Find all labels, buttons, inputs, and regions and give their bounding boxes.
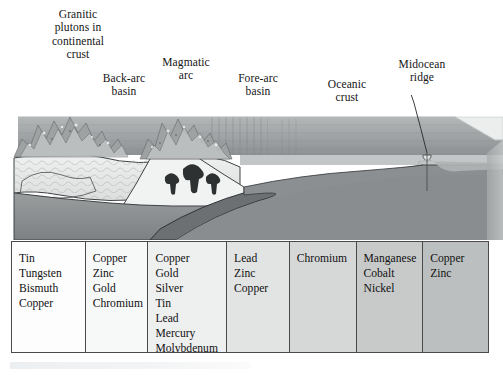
mineral-item: Bismuth [19, 281, 85, 296]
table-column-midocean-ridge-manganese: Manganese Cobalt Nickel [357, 242, 424, 352]
table-column-fore-arc-basin: Lead Zinc Copper [227, 242, 290, 352]
mineral-item: Tin [19, 251, 85, 266]
label-line: Fore-arc [222, 72, 294, 85]
mineral-item: Lead [234, 251, 289, 266]
mineral-item: Cobalt [364, 266, 423, 281]
mineral-item: Zinc [430, 266, 488, 281]
label-line: ridge [382, 71, 462, 84]
table-column-back-arc-basin: Copper Zinc Gold Chromium [86, 242, 149, 352]
ore-deposit-table: Tin Tungsten Bismuth Copper Copper Zinc … [11, 241, 489, 353]
label-granitic-plutons: Granitic plutons in continental crust [24, 8, 132, 61]
mineral-item: Chromium [93, 296, 148, 311]
mineral-item: Chromium [297, 251, 356, 266]
mineral-item: Copper [234, 281, 289, 296]
table-column-granitic-plutons: Tin Tungsten Bismuth Copper [12, 242, 86, 352]
mineral-item: Lead [155, 311, 226, 326]
table-column-magmatic-arc: Copper Gold Silver Tin Lead Mercury Moly… [148, 242, 227, 352]
mineral-item: Copper [19, 296, 85, 311]
mineral-item: Gold [93, 281, 148, 296]
label-line: Midocean [382, 58, 462, 71]
mineral-item: Molybdenum [155, 341, 226, 352]
subduction-zone-block-diagram [0, 95, 503, 240]
mineral-item: Copper [93, 251, 148, 266]
table-column-oceanic-crust: Chromium [290, 242, 357, 352]
table-column-midocean-ridge-copper: Copper Zinc [423, 242, 488, 352]
mineral-item: Mercury [155, 326, 226, 341]
figure-canvas: Granitic plutons in continental crust Ba… [0, 0, 503, 375]
mineral-item: Zinc [93, 266, 148, 281]
footer-bar [10, 362, 250, 369]
label-line: arc [146, 69, 226, 82]
label-magmatic-arc: Magmatic arc [146, 56, 226, 83]
mineral-item: Zinc [234, 266, 289, 281]
mineral-item: Nickel [364, 281, 423, 296]
label-midocean-ridge: Midocean ridge [382, 58, 462, 85]
mineral-item: Silver [155, 281, 226, 296]
mineral-item: Copper [155, 251, 226, 266]
mineral-item: Tin [155, 296, 226, 311]
label-line: Magmatic [146, 56, 226, 69]
label-line: crust [24, 48, 132, 61]
label-line: continental [24, 35, 132, 48]
mineral-item: Gold [155, 266, 226, 281]
label-line: Granitic [24, 8, 132, 21]
mineral-item: Manganese [364, 251, 423, 266]
mineral-item: Copper [430, 251, 488, 266]
label-line: plutons in [24, 21, 132, 34]
mineral-item: Tungsten [19, 266, 85, 281]
label-line: Oceanic [312, 78, 382, 91]
